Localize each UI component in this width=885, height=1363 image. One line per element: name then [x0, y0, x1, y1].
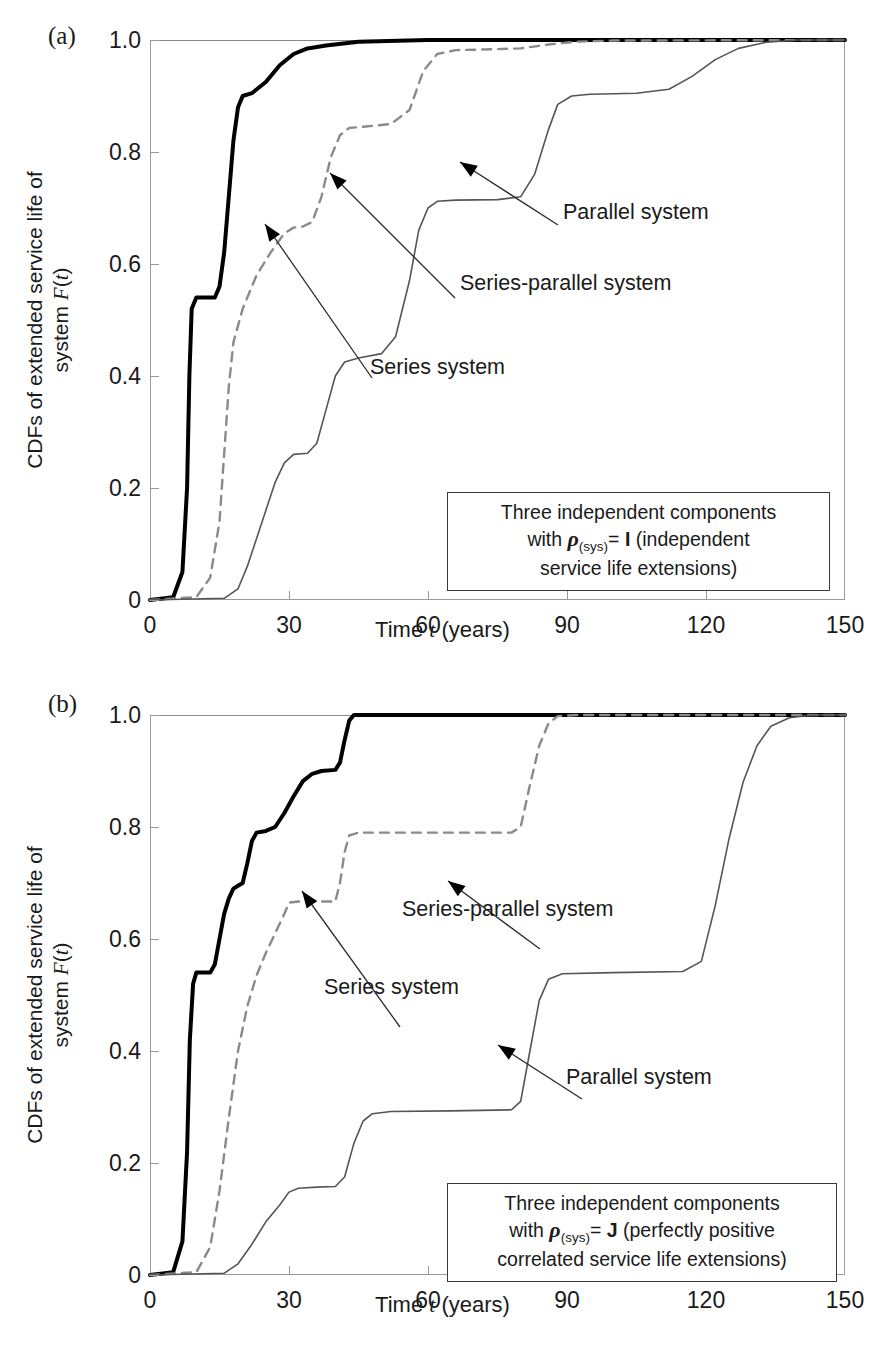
- panel-b-annotation-parallel: Parallel system: [566, 1065, 712, 1090]
- panel-a-note-box: Three independent components with ρ(sys)…: [447, 492, 830, 591]
- panel-b-note-line1: Three independent components: [460, 1191, 824, 1216]
- undefined: [265, 224, 372, 378]
- panel-b-y-tick-mark: [150, 827, 159, 828]
- panel-a-x-tick-mark: [567, 591, 568, 600]
- panel-b-label: (b): [48, 690, 77, 718]
- panel-a-y-tick-label: 1.0: [109, 27, 141, 54]
- panel-a-y-tick-label: 0.6: [109, 251, 141, 278]
- panel-b-y-tick-label: 0.8: [109, 814, 141, 841]
- panel-b-y-tick-mark: [150, 1051, 159, 1052]
- panel-a-y-tick-label: 0.8: [109, 139, 141, 166]
- panel-a-x-axis-label: Time t (years): [0, 617, 885, 643]
- panel-a-y-tick-mark: [150, 40, 159, 41]
- panel-b-annotation-series: Series system: [324, 975, 459, 1000]
- panel-a-y-tick-mark: [150, 264, 159, 265]
- panel-b-x-tick-mark: [428, 1266, 429, 1275]
- panel-a-annotation-series-parallel: Series-parallel system: [460, 271, 671, 296]
- panel-a-y-tick-label: 0.2: [109, 475, 141, 502]
- panel-b-y-tick-mark: [150, 715, 159, 716]
- panel-a-y-tick-mark: [150, 152, 159, 153]
- panel-a-x-tick-mark: [706, 591, 707, 600]
- panel-b-x-tick-mark: [289, 1266, 290, 1275]
- panel-a-x-tick-mark: [289, 591, 290, 600]
- panel-b-y-tick-mark: [150, 1163, 159, 1164]
- panel-a-y-tick-label: 0: [128, 587, 141, 614]
- undefined: [460, 162, 558, 225]
- panel-a-annotation-series: Series system: [370, 355, 505, 380]
- panel-a-x-tick-mark: [428, 591, 429, 600]
- undefined: [302, 891, 400, 1027]
- panel-b-y-axis-label: CDFs of extended service life of system …: [22, 715, 75, 1275]
- y-axis-label-line1: CDFs of extended service life of: [23, 846, 46, 1144]
- panel-b-y-tick-label: 0.6: [109, 926, 141, 953]
- panel-b-note-box: Three independent components with ρ(sys)…: [447, 1183, 837, 1282]
- panel-a-y-axis-label: CDFs of extended service life of system …: [22, 40, 75, 600]
- panel-b-annotation-series-parallel: Series-parallel system: [402, 897, 613, 922]
- panel-a-y-tick-mark: [150, 488, 159, 489]
- panel-b-x-axis-label: Time t (years): [0, 1292, 885, 1318]
- panel-a-y-tick-label: 0.4: [109, 363, 141, 390]
- panel-b-y-tick-mark: [150, 1275, 159, 1276]
- y-axis-label-line1: CDFs of extended service life of: [23, 171, 46, 469]
- panel-b-y-tick-label: 0.2: [109, 1150, 141, 1177]
- panel-a-y-tick-mark: [150, 600, 159, 601]
- y-axis-label-line2: system F(t): [49, 943, 72, 1048]
- panel-a-note-line1: Three independent components: [460, 500, 817, 525]
- panel-a: (a) CDFs of extended service life of sys…: [0, 0, 885, 668]
- panel-b-y-tick-label: 0.4: [109, 1038, 141, 1065]
- panel-a-note-line2: with ρ(sys)= I (independent: [460, 525, 817, 555]
- panel-b-y-tick-mark: [150, 939, 159, 940]
- panel-a-y-tick-mark: [150, 376, 159, 377]
- panel-b-y-tick-label: 1.0: [109, 702, 141, 729]
- panel-b-note-line2: with ρ(sys)= J (perfectly positive: [460, 1216, 824, 1246]
- panel-a-annotation-parallel: Parallel system: [563, 200, 709, 225]
- panel-b-y-tick-label: 0: [128, 1262, 141, 1289]
- panel-a-note-line3: service life extensions): [460, 556, 817, 581]
- panel-b-note-line3: correlated service life extensions): [460, 1247, 824, 1272]
- y-axis-label-line2: system F(t): [49, 268, 72, 373]
- undefined: [330, 173, 455, 298]
- panel-b: (b) CDFs of extended service life of sys…: [0, 675, 885, 1343]
